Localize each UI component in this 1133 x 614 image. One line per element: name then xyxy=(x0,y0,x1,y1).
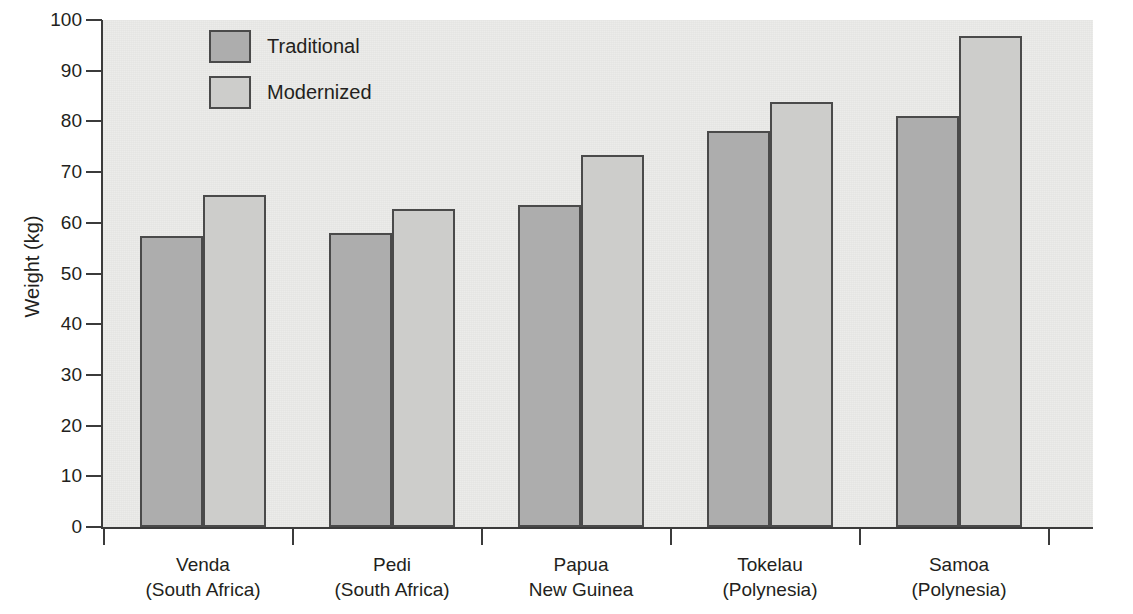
x-axis-category-line: (South Africa) xyxy=(292,577,492,602)
legend-item: Traditional xyxy=(209,27,372,65)
bar-modernized xyxy=(203,195,266,527)
y-axis-tick xyxy=(86,70,102,72)
y-axis-tick-label: 90 xyxy=(40,61,82,80)
y-axis-tick xyxy=(86,323,102,325)
x-axis-tick xyxy=(1048,527,1050,545)
x-axis-category-line: (South Africa) xyxy=(103,577,303,602)
y-axis-tick-label: 60 xyxy=(40,213,82,232)
y-axis-tick xyxy=(86,120,102,122)
y-axis-tick-label: 100 xyxy=(40,10,82,29)
bar-traditional xyxy=(896,116,959,527)
y-axis-tick xyxy=(86,171,102,173)
y-axis-tick xyxy=(86,425,102,427)
y-axis-tick xyxy=(86,273,102,275)
x-axis-category-label: PapuaNew Guinea xyxy=(481,552,681,602)
y-axis-tick xyxy=(86,222,102,224)
y-axis-tick-label: 30 xyxy=(40,365,82,384)
x-axis-category-line: Pedi xyxy=(292,552,492,577)
x-axis-category-label: Tokelau(Polynesia) xyxy=(670,552,870,602)
y-axis-tick xyxy=(86,526,102,528)
x-axis-tick xyxy=(481,527,483,545)
chart-legend: TraditionalModernized xyxy=(209,27,372,119)
x-axis-category-line: Venda xyxy=(103,552,303,577)
bar-modernized xyxy=(959,36,1022,527)
y-axis-tick-label: 20 xyxy=(40,416,82,435)
x-axis-category-line: New Guinea xyxy=(481,577,681,602)
x-axis-tick xyxy=(292,527,294,545)
x-axis-category-line: (Polynesia) xyxy=(670,577,870,602)
bar-modernized xyxy=(770,102,833,527)
x-axis-category-line: (Polynesia) xyxy=(859,577,1059,602)
bar-traditional xyxy=(140,236,203,527)
legend-label: Traditional xyxy=(267,35,360,58)
bar-modernized xyxy=(392,209,455,527)
legend-label: Modernized xyxy=(267,81,372,104)
y-axis-tick xyxy=(86,374,102,376)
y-axis-tick-label: 50 xyxy=(40,264,82,283)
x-axis-category-label: Pedi(South Africa) xyxy=(292,552,492,602)
y-axis-tick-label: 0 xyxy=(40,517,82,536)
legend-swatch-modernized xyxy=(209,76,251,109)
bar-traditional xyxy=(329,233,392,527)
y-axis-tick-label: 40 xyxy=(40,314,82,333)
x-axis-category-label: Samoa(Polynesia) xyxy=(859,552,1059,602)
x-axis-category-line: Samoa xyxy=(859,552,1059,577)
x-axis-category-line: Tokelau xyxy=(670,552,870,577)
y-axis-tick xyxy=(86,475,102,477)
bar-traditional xyxy=(518,205,581,527)
legend-item: Modernized xyxy=(209,73,372,111)
y-axis-title: Weight (kg) xyxy=(21,157,44,377)
x-axis-tick xyxy=(859,527,861,545)
x-axis-category-line: Papua xyxy=(481,552,681,577)
y-axis-tick-label: 70 xyxy=(40,162,82,181)
x-axis-category-label: Venda(South Africa) xyxy=(103,552,303,602)
bar-traditional xyxy=(707,131,770,527)
legend-swatch-traditional xyxy=(209,30,251,63)
y-axis-tick-label: 10 xyxy=(40,466,82,485)
x-axis-tick xyxy=(103,527,105,545)
y-axis-tick xyxy=(86,19,102,21)
bar-chart-figure: 0102030405060708090100 Weight (kg) Venda… xyxy=(0,0,1133,614)
y-axis-tick-label: 80 xyxy=(40,111,82,130)
bar-modernized xyxy=(581,155,644,527)
x-axis-tick xyxy=(670,527,672,545)
